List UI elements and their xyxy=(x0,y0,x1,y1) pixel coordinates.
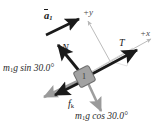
label-axis-plus-x: +x xyxy=(140,29,150,38)
vector-mg-cos-arrow xyxy=(88,83,101,111)
axis-plus-y xyxy=(88,21,110,61)
label-acceleration: a1 xyxy=(44,11,53,22)
force-vectors xyxy=(46,19,137,95)
label-gravity-parallel: m1g sin 30.0° xyxy=(3,64,54,74)
vector-tension-arrow xyxy=(92,50,137,74)
label-friction-subscript: k xyxy=(71,102,74,109)
label-axis-plus-y: +y xyxy=(83,8,93,17)
vector-mg-sin-arrow xyxy=(44,80,80,97)
free-body-diagram: a1 +y +x N T fk m1g sin 30.0° m1g cos 30… xyxy=(0,0,168,132)
label-gravity-parallel-base: g sin 30.0° xyxy=(13,63,54,73)
label-gravity-perpendicular-mass: m xyxy=(75,111,82,121)
label-gravity-parallel-mass: m xyxy=(3,63,10,73)
label-block-number: 1 xyxy=(82,72,86,81)
label-normal-force: N xyxy=(62,43,69,53)
label-gravity-perpendicular: m1g cos 30.0° xyxy=(75,112,128,122)
label-friction: fk xyxy=(68,99,74,109)
label-tension: T xyxy=(119,38,125,48)
label-acceleration-subscript: 1 xyxy=(49,14,52,21)
label-gravity-perpendicular-base: g cos 30.0° xyxy=(85,111,128,121)
